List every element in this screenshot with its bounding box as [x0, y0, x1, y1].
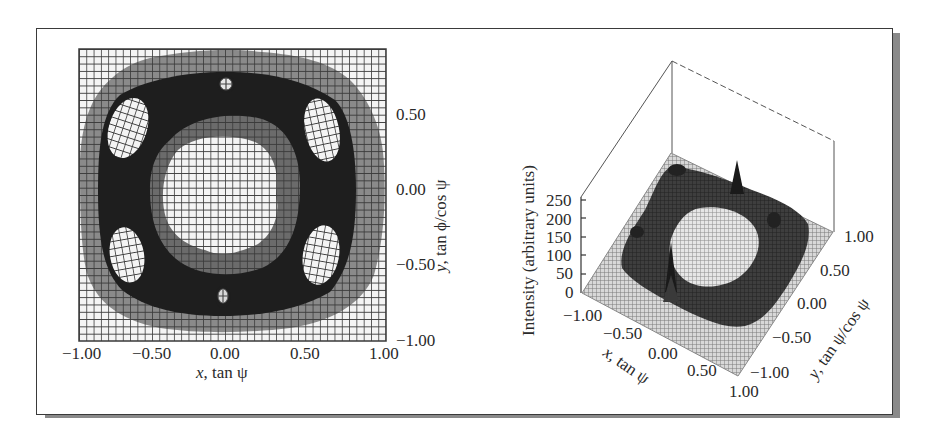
- x-tick-label: −1.00: [563, 306, 602, 325]
- x-axis-label: x, tan ψ: [195, 363, 248, 382]
- small-ring-bottom: [215, 286, 231, 308]
- contour-map-plot: −1.00 −0.50 0.00 0.50 1.00 x, tan ψ 0.50…: [62, 49, 450, 382]
- peak-top: [730, 160, 744, 194]
- y-tick-label: 0.50: [396, 105, 426, 124]
- z-tick-label: 250: [546, 191, 572, 210]
- z-tick-label: 100: [546, 246, 572, 265]
- x-tick-label: 0.00: [210, 344, 240, 363]
- z-tick-label: 200: [546, 210, 572, 229]
- y-tick-label: −0.50: [396, 255, 435, 274]
- bump-right: [767, 212, 781, 228]
- x-tick-label: −0.50: [603, 324, 642, 343]
- x-tick-label: −1.00: [62, 344, 101, 363]
- x-tick-label: 1.00: [369, 344, 399, 363]
- surface-3d-plot: 250 200 150 100 50 0 Intensity (arbitrar…: [519, 61, 874, 401]
- z-tick-label: 0: [565, 283, 574, 302]
- bump-left: [630, 226, 644, 238]
- central-low-region: [163, 137, 278, 254]
- x-tick-label: 0.00: [648, 344, 678, 363]
- figure-canvas: −1.00 −0.50 0.00 0.50 1.00 x, tan ψ 0.50…: [0, 0, 931, 441]
- y-tick-label: 0.00: [797, 294, 827, 313]
- z-tick-label: 150: [546, 228, 572, 247]
- x-tick-label: 0.50: [687, 361, 717, 380]
- x-tick-label: −0.50: [132, 344, 171, 363]
- y-tick-label: −1.00: [750, 363, 789, 382]
- z-axis: [581, 197, 586, 293]
- y-axis-label: y, tan ϕ/cos ψ: [431, 179, 450, 274]
- y-tick-label: −1.00: [396, 331, 435, 350]
- y-tick-label: 1.00: [844, 227, 874, 246]
- x-tick-label: 1.00: [729, 382, 759, 401]
- y-tick-label: 0.50: [820, 261, 850, 280]
- x-tick-label: 0.50: [290, 344, 320, 363]
- y-tick-label: −0.50: [772, 328, 811, 347]
- bump-back-left: [668, 164, 686, 176]
- x-axis-label: x, tan ψ: [599, 342, 653, 388]
- small-ring-top: [217, 75, 235, 93]
- z-tick-label: 50: [556, 264, 573, 283]
- z-axis-label: Intensity (arbitrary units): [519, 165, 538, 336]
- y-tick-label: 0.00: [396, 180, 426, 199]
